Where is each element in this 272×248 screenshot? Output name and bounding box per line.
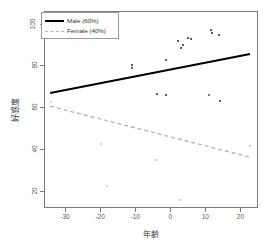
- legend-label-female: Female (40%): [67, 27, 106, 35]
- data-point: [249, 145, 251, 147]
- data-point: [187, 37, 189, 39]
- y-tick-label: 100: [27, 20, 38, 27]
- x-tick-label: 20: [237, 213, 244, 220]
- data-point: [180, 47, 182, 49]
- legend-label-male: Male (60%): [67, 17, 99, 25]
- x-tick-mark: [65, 208, 66, 212]
- x-tick-mark: [170, 208, 171, 212]
- regression-lines: [45, 12, 257, 207]
- x-tick-mark: [205, 208, 206, 212]
- regression-line: [50, 54, 250, 93]
- chart-root: 好感度 年齢 -30-20-100102020406080100 Male (6…: [0, 0, 272, 248]
- x-tick-mark: [100, 208, 101, 212]
- x-tick-label: 0: [168, 213, 172, 220]
- data-point: [165, 59, 167, 61]
- y-tick-label: 40: [31, 146, 38, 153]
- data-point: [218, 34, 220, 36]
- x-tick-label: -30: [60, 213, 69, 220]
- x-tick-label: -10: [131, 213, 140, 220]
- y-tick-label: 60: [31, 104, 38, 111]
- data-point: [219, 100, 221, 102]
- legend-line-solid-icon: [45, 20, 64, 22]
- y-axis-title: 好感度: [9, 98, 20, 122]
- plot-area: [45, 12, 257, 207]
- x-axis-title: 年齢: [143, 228, 159, 239]
- legend-item-male: Male (60%): [45, 16, 115, 26]
- x-tick-mark: [240, 208, 241, 212]
- data-point: [179, 199, 181, 201]
- data-point: [156, 93, 158, 95]
- data-point: [50, 101, 52, 103]
- data-point: [165, 94, 167, 96]
- data-point: [209, 94, 211, 96]
- regression-line: [50, 106, 250, 157]
- data-point: [131, 67, 133, 69]
- data-point: [182, 44, 184, 46]
- legend-line-dashed-icon: [45, 31, 64, 32]
- data-point: [106, 185, 108, 187]
- legend: Male (60%) Female (40%): [41, 12, 119, 39]
- data-point: [100, 143, 102, 145]
- data-point: [190, 38, 192, 40]
- x-tick-label: 10: [202, 213, 209, 220]
- data-point: [177, 40, 179, 42]
- data-point: [155, 159, 157, 161]
- x-tick-label: -20: [95, 213, 104, 220]
- plot-frame: [44, 11, 258, 208]
- x-tick-mark: [135, 208, 136, 212]
- y-tick-label: 20: [31, 188, 38, 195]
- data-point: [211, 32, 213, 34]
- legend-item-female: Female (40%): [45, 26, 115, 36]
- y-tick-label: 80: [31, 62, 38, 69]
